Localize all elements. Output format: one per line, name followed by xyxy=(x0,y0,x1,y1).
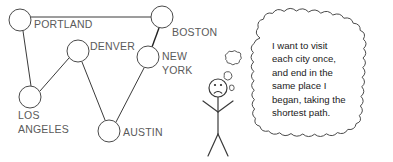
thought-bubble: I want to visit each city once, and end … xyxy=(251,8,366,136)
figure-leg-right xyxy=(218,134,228,156)
puff-mid-icon xyxy=(224,72,232,81)
edge-new-york-boston xyxy=(152,28,159,47)
label-new-york-line2: YORK xyxy=(162,64,193,76)
thought-line-5: began, taking the xyxy=(272,94,346,105)
node-portland[interactable] xyxy=(9,9,31,31)
node-denver[interactable] xyxy=(67,40,89,62)
thought-line-2: each city once, xyxy=(272,53,336,64)
figure-leg-left xyxy=(208,134,218,156)
puff-small-icon xyxy=(230,85,235,91)
label-denver: DENVER xyxy=(90,40,135,52)
figure-head xyxy=(209,79,227,97)
label-los-angeles-line1: LOS xyxy=(18,109,40,121)
figure-arm-left xyxy=(203,101,218,112)
thought-line-1: I want to visit xyxy=(272,40,328,51)
node-boston[interactable] xyxy=(151,6,173,28)
city-labels: PORTLAND BOSTON DENVER NEW YORK LOS ANGE… xyxy=(18,18,217,138)
node-austin[interactable] xyxy=(98,120,120,142)
thought-line-3: and end in the xyxy=(272,67,333,78)
label-los-angeles-line2: ANGELES xyxy=(18,123,69,135)
label-new-york-line1: NEW xyxy=(162,50,187,62)
puff-large-icon xyxy=(225,51,241,65)
edge-portland-los-angeles xyxy=(23,31,31,86)
figure-eye-left-icon xyxy=(214,84,216,86)
stick-figure-person xyxy=(203,79,233,156)
figure-eye-right-icon xyxy=(220,84,222,86)
label-portland: PORTLAND xyxy=(34,18,93,30)
edge-austin-new-york xyxy=(116,68,144,122)
diagram-canvas: PORTLAND BOSTON DENVER NEW YORK LOS ANGE… xyxy=(0,0,393,162)
graph-edges xyxy=(23,17,159,122)
thought-line-6: shortest path. xyxy=(272,107,330,118)
thought-line-4: same place I xyxy=(272,80,326,91)
node-new-york[interactable] xyxy=(137,46,159,68)
edge-denver-austin xyxy=(82,62,105,120)
edge-los-angeles-denver xyxy=(40,58,69,91)
tsp-illustration: PORTLAND BOSTON DENVER NEW YORK LOS ANGE… xyxy=(0,0,393,162)
label-austin: AUSTIN xyxy=(123,126,163,138)
figure-arm-right xyxy=(218,101,233,112)
label-boston: BOSTON xyxy=(172,26,217,38)
node-los-angeles[interactable] xyxy=(19,86,41,108)
